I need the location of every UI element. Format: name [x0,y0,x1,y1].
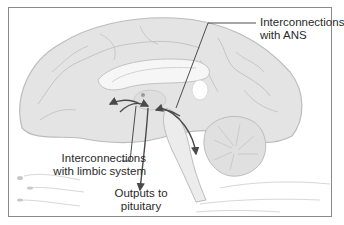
label-ans-line1: Interconnections [260,16,344,29]
background-dots [17,176,33,202]
label-outputs-pituitary: Outputs to pituitary [108,187,174,213]
cerebellum [204,116,266,176]
label-pituitary-line1: Outputs to [108,187,174,200]
background-strokes [20,174,330,212]
label-interconnections-ans: Interconnections with ANS [260,16,344,42]
thalamus [134,90,166,110]
label-pituitary-line2: pituitary [108,200,174,213]
label-limbic-line1: Interconnections [16,152,146,165]
label-limbic-line2: with limbic system [16,165,146,178]
hypothalamus-marker [141,93,145,97]
label-ans-line2: with ANS [260,29,344,42]
label-interconnections-limbic: Interconnections with limbic system [16,152,146,178]
